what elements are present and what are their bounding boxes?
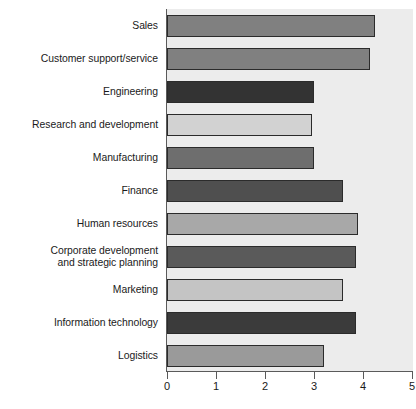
category-label-line: Human resources <box>77 218 158 230</box>
category-label: Engineering <box>0 75 158 108</box>
x-axis-tick-label: 3 <box>302 380 326 392</box>
category-label-line: Information technology <box>54 317 158 329</box>
bar <box>167 15 375 37</box>
category-axis-labels: SalesCustomer support/serviceEngineering… <box>0 9 163 372</box>
category-label: Manufacturing <box>0 141 158 174</box>
bar <box>167 48 370 70</box>
x-axis-tick <box>167 372 168 379</box>
category-label-line: Marketing <box>113 284 158 296</box>
category-label-line: Manufacturing <box>93 152 158 164</box>
x-axis-tick-label: 0 <box>155 380 179 392</box>
category-label: Finance <box>0 174 158 207</box>
bar <box>167 279 343 301</box>
bar <box>167 345 324 367</box>
category-label-line: Research and development <box>32 119 158 131</box>
category-label: Customer support/service <box>0 42 158 75</box>
x-axis-tick-label: 1 <box>204 380 228 392</box>
bar <box>167 180 343 202</box>
bar <box>167 246 356 268</box>
x-axis: 012345 <box>166 372 413 402</box>
x-axis-tick-label: 2 <box>253 380 277 392</box>
category-label: Information technology <box>0 306 158 339</box>
x-axis-tick <box>412 372 413 379</box>
bar <box>167 213 358 235</box>
category-label: Sales <box>0 9 158 42</box>
x-axis-tick-label: 5 <box>400 380 416 392</box>
bar <box>167 114 312 136</box>
x-axis-tick <box>363 372 364 379</box>
category-label-line: Logistics <box>118 350 158 362</box>
category-label-line: Sales <box>132 20 158 32</box>
category-label-line: Finance <box>121 185 158 197</box>
category-label-line: Customer support/service <box>41 53 158 65</box>
category-label: Marketing <box>0 273 158 306</box>
category-label-line: Engineering <box>103 86 158 98</box>
horizontal-bar-chart: SalesCustomer support/serviceEngineering… <box>0 0 416 409</box>
category-label: Corporate developmentand strategic plann… <box>0 240 158 273</box>
category-label-line: Corporate development <box>50 245 158 257</box>
plot-area <box>166 9 413 372</box>
bar <box>167 147 314 169</box>
x-axis-tick <box>314 372 315 379</box>
bar <box>167 312 356 334</box>
category-label-line: and strategic planning <box>57 257 158 269</box>
category-label: Logistics <box>0 339 158 372</box>
x-axis-tick <box>216 372 217 379</box>
category-label: Research and development <box>0 108 158 141</box>
x-axis-tick <box>265 372 266 379</box>
x-axis-tick-label: 4 <box>351 380 375 392</box>
category-label: Human resources <box>0 207 158 240</box>
bar <box>167 81 314 103</box>
